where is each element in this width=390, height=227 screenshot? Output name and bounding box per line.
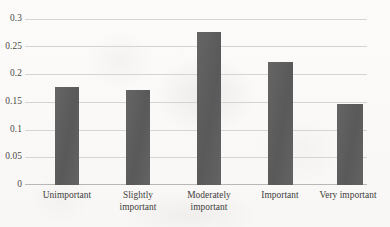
bar-very-important [337,104,363,185]
y-tick-label-0.2: 0.2 [0,68,22,78]
bar-chart-figure: 0.3 0.25 0.2 0.15 0.1 0.05 0 Unimportant… [0,0,390,227]
plot-area [25,19,367,185]
y-tick-label-0.05: 0.05 [0,151,22,161]
gridline-0.25 [25,46,367,47]
y-tick-label-0: 0 [0,179,22,189]
x-tick-label-very-important: Very important [302,190,390,202]
gridline-0.2 [25,74,367,75]
y-tick-label-0.1: 0.1 [0,124,22,134]
y-tick-label-0.3: 0.3 [0,13,22,23]
y-tick-label-0.25: 0.25 [0,41,22,51]
y-tick-label-0.15: 0.15 [0,96,22,106]
gridline-0.3 [25,19,367,20]
bar-moderately-important [197,32,221,185]
bar-important [268,62,293,185]
bar-unimportant [55,87,79,186]
bar-slightly-important [126,90,150,185]
